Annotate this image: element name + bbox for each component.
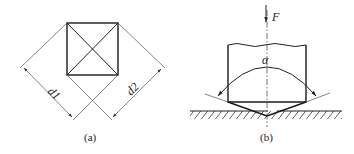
force-label: F <box>271 10 280 24</box>
panel-a: d1 d2 (a) <box>20 23 165 144</box>
d1-label: d1 <box>45 84 63 102</box>
indentation-diagram: d1 d2 (a) F α (b) <box>0 0 354 154</box>
caption-a: (a) <box>84 131 97 144</box>
caption-b: (b) <box>260 131 273 144</box>
panel-b: F α (b) <box>190 5 342 144</box>
angle-label: α <box>262 53 269 67</box>
d2-label: d2 <box>123 80 141 98</box>
